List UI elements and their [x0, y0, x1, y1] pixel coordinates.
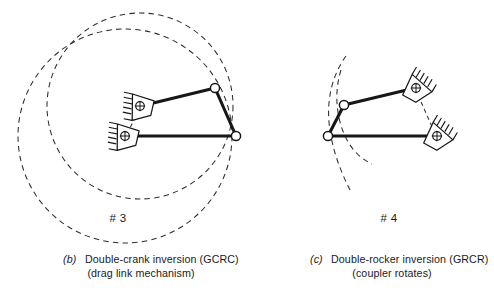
panel-c-caption-prefix: (c) — [310, 253, 323, 265]
panel-c-number-label: # 4 — [380, 212, 397, 224]
ground-pivot-upper — [114, 83, 159, 126]
panel-c-caption-line2: (coupler rotates) — [352, 267, 432, 279]
panel-b-caption-line1: Double-crank inversion (GCRC) — [85, 253, 239, 265]
panel-b-graphic — [18, 13, 241, 243]
linkage-figure-svg: # 3 # 4 (b) Double-crank inversion (GCRC… — [0, 0, 494, 291]
ground-pivot-upper-right — [395, 63, 440, 106]
panel-b-caption-line2: (drag link mechanism) — [87, 267, 194, 279]
panel-b-number-label: # 3 — [109, 212, 126, 224]
panel-b-caption-prefix: (b) — [63, 253, 76, 265]
joint-upper-left — [339, 100, 348, 109]
trace-arc-right — [337, 70, 372, 164]
panel-c-graphic — [323, 56, 460, 190]
joint-lower-left — [323, 131, 332, 140]
joint-lower-right — [231, 131, 240, 140]
ground-pivot-lower-right — [416, 111, 461, 154]
figure-root: # 3 # 4 (b) Double-crank inversion (GCRC… — [0, 0, 494, 291]
joint-upper-right — [210, 83, 219, 92]
panel-c-caption-line1: Double-rocker inversion (GRCR) — [331, 253, 488, 265]
trace-arc-left — [329, 56, 350, 190]
